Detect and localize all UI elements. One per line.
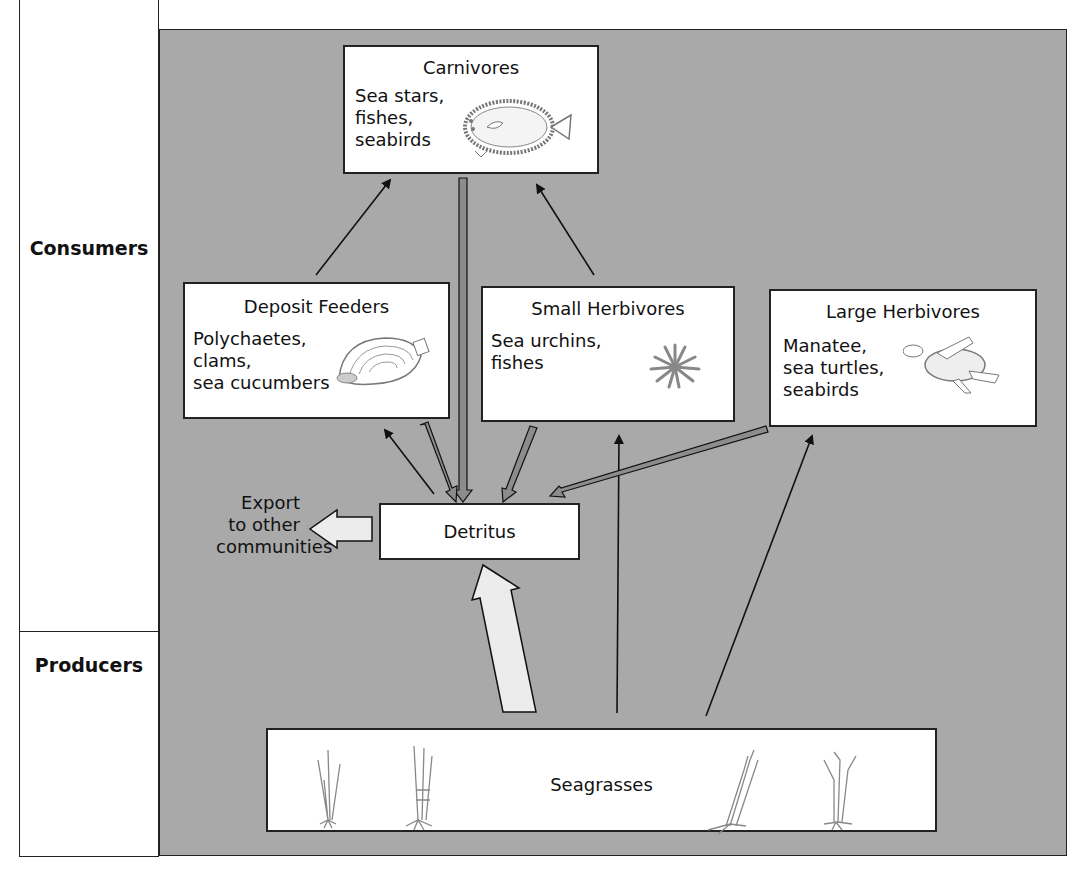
sea-turtle-icon bbox=[903, 331, 1003, 395]
detritus-title: Detritus bbox=[381, 521, 578, 542]
large-herbivores-examples: Manatee, sea turtles, seabirds bbox=[783, 335, 884, 401]
carnivores-node: Carnivores Sea stars, fishes, seabirds bbox=[343, 45, 599, 174]
large-herbivores-node: Large Herbivores Manatee, sea turtles, s… bbox=[769, 289, 1037, 427]
clam-icon bbox=[333, 326, 433, 386]
carnivores-title: Carnivores bbox=[345, 57, 597, 78]
small-herbivores-title: Small Herbivores bbox=[483, 298, 733, 319]
small-herbivores-examples: Sea urchins, fishes bbox=[491, 330, 601, 374]
seagrass-icon bbox=[268, 730, 939, 834]
consumers-label: Consumers bbox=[20, 237, 158, 259]
seagrasses-node: Seagrasses bbox=[266, 728, 937, 832]
consumers-level-cell: Consumers bbox=[19, 0, 159, 632]
detritus-node: Detritus bbox=[379, 503, 580, 560]
producers-level-cell: Producers bbox=[19, 631, 159, 857]
deposit-feeders-examples: Polychaetes, clams, sea cucumbers bbox=[193, 328, 330, 394]
export-label: Export to other communities bbox=[216, 492, 300, 558]
small-herbivores-node: Small Herbivores Sea urchins, fishes bbox=[481, 286, 735, 422]
producers-label: Producers bbox=[20, 654, 158, 676]
carnivores-examples: Sea stars, fishes, seabirds bbox=[355, 85, 444, 151]
large-herbivores-title: Large Herbivores bbox=[771, 301, 1035, 322]
deposit-feeders-title: Deposit Feeders bbox=[185, 296, 448, 317]
flatfish-icon bbox=[457, 93, 577, 163]
sea-urchin-icon bbox=[645, 342, 705, 392]
deposit-feeders-node: Deposit Feeders Polychaetes, clams, sea … bbox=[183, 282, 450, 419]
